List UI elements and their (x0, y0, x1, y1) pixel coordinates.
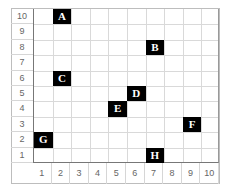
y-label: 3 (11, 117, 33, 132)
point-marker-e: E (108, 101, 127, 116)
x-label: 2 (52, 163, 71, 184)
x-label: 4 (89, 163, 108, 184)
point-marker-f: F (183, 117, 202, 132)
point-marker-h: H (146, 148, 165, 163)
y-label: 1 (11, 148, 33, 163)
y-label: 9 (11, 24, 33, 39)
point-marker-a: A (53, 9, 72, 24)
point-marker-c: C (53, 71, 72, 86)
point-marker-b: B (146, 40, 165, 55)
x-label: 1 (33, 163, 52, 184)
y-label: 10 (11, 9, 33, 24)
x-label: 5 (107, 163, 126, 184)
x-label: 6 (126, 163, 145, 184)
x-label: 8 (163, 163, 182, 184)
point-marker-g: G (34, 132, 53, 147)
coordinate-grid: A B C D E F G H (33, 9, 219, 163)
x-label: 9 (182, 163, 201, 184)
y-label: 5 (11, 86, 33, 101)
x-label: 3 (70, 163, 89, 184)
y-label: 2 (11, 132, 33, 147)
x-axis-labels: 1 2 3 4 5 6 7 8 9 10 (33, 163, 219, 184)
point-marker-d: D (127, 86, 146, 101)
x-label: 10 (200, 163, 219, 184)
y-label: 6 (11, 71, 33, 86)
y-label: 4 (11, 101, 33, 116)
x-label: 7 (145, 163, 164, 184)
y-label: 8 (11, 40, 33, 55)
y-label: 7 (11, 55, 33, 70)
